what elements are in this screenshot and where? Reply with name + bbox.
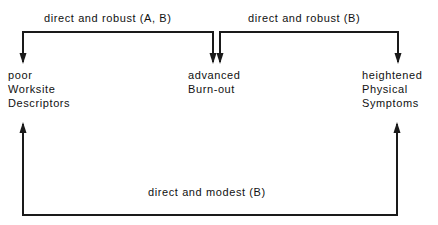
- node-line: heightened: [362, 68, 422, 82]
- edge-worksite-symptoms: [20, 122, 401, 215]
- node-line: Burn-out: [188, 82, 241, 96]
- node-burnout: advanced Burn-out: [188, 68, 241, 96]
- node-line: poor: [8, 68, 70, 82]
- arrowhead-down-icon: [210, 53, 217, 64]
- arrowhead-up-icon: [20, 122, 27, 133]
- node-line: Symptoms: [362, 96, 422, 110]
- node-physical-symptoms: heightened Physical Symptoms: [362, 68, 422, 110]
- node-worksite-descriptors: poor Worksite Descriptors: [8, 68, 70, 110]
- node-line: Descriptors: [8, 96, 70, 110]
- node-line: advanced: [188, 68, 241, 82]
- node-line: Worksite: [8, 82, 70, 96]
- edge-label-worksite-symptoms: direct and modest (B): [148, 186, 266, 198]
- arrowhead-down-icon: [395, 53, 402, 64]
- edge-label-burnout-symptoms: direct and robust (B): [248, 12, 360, 24]
- edge-label-worksite-burnout: direct and robust (A, B): [44, 12, 172, 24]
- node-line: Physical: [362, 82, 422, 96]
- edge-burnout-symptoms: [217, 32, 402, 64]
- arrowhead-down-icon: [217, 53, 224, 64]
- arrowhead-up-icon: [394, 122, 401, 133]
- edge-worksite-burnout: [20, 32, 217, 64]
- arrowhead-down-icon: [20, 53, 27, 64]
